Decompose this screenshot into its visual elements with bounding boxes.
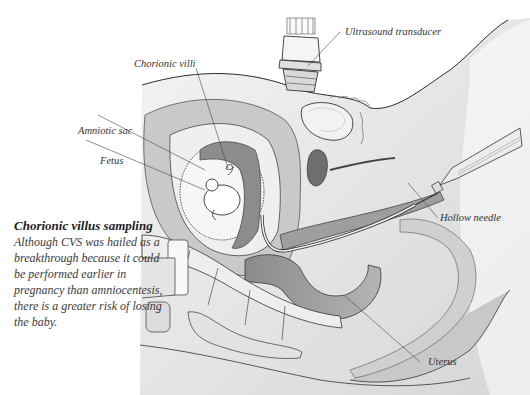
label-hollow-needle: Hollow needle [440, 212, 501, 223]
figure-caption: Chorionic villus sampling Although CVS w… [14, 218, 164, 330]
anatomy-illustration [0, 0, 530, 395]
label-ultrasound-transducer: Ultrasound transducer [345, 26, 441, 37]
label-fetus: Fetus [100, 155, 123, 166]
label-uterus: Uterus [428, 356, 457, 367]
label-chorionic-villi: Chorionic villi [134, 58, 196, 69]
cvs-diagram: Ultrasound transducer Chorionic villi Am… [0, 0, 530, 395]
label-amniotic-sac: Amniotic sac [78, 125, 133, 136]
caption-title: Chorionic villus sampling [14, 218, 164, 234]
ultrasound-transducer [279, 18, 321, 92]
caption-body: Although CVS was hailed as a breakthroug… [14, 234, 164, 330]
